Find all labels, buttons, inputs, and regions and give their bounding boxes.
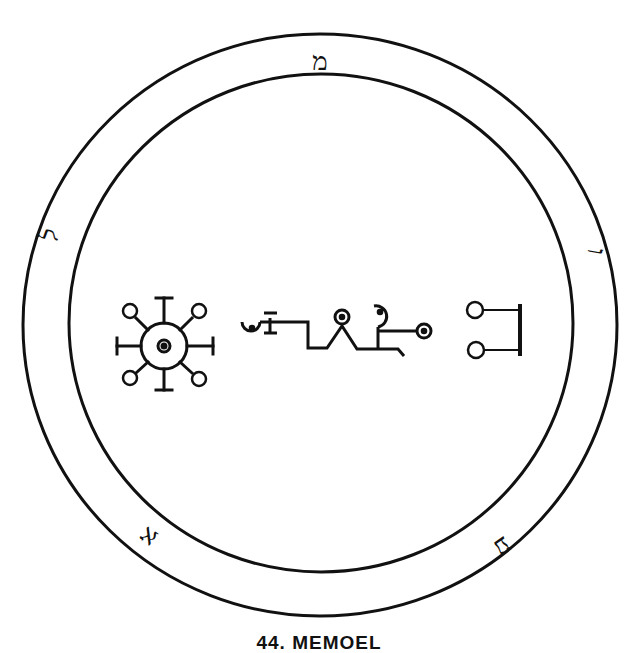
ring-letter-left: ל: [33, 224, 66, 247]
ring-letter-top: מ: [312, 46, 327, 76]
seal-caption: 44. MEMOEL: [0, 632, 638, 653]
radiant-circle-sigil: [117, 298, 213, 390]
outer-ring-circle: [23, 34, 617, 616]
inner-ring-circle: [69, 74, 573, 572]
ring-letter-bottom-left: א: [133, 521, 163, 555]
connected-glyph-chain: [242, 306, 431, 356]
bracket-with-two-circles: [467, 302, 520, 358]
